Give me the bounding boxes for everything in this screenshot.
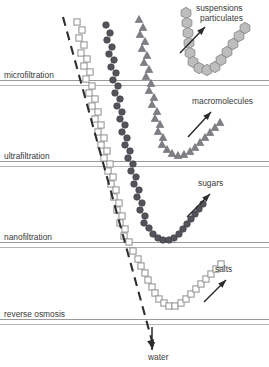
- marker-circle: [113, 70, 120, 77]
- marker-circle: [137, 207, 144, 214]
- filtration-spectrum-figure: microfiltrationultrafiltrationnanofiltra…: [0, 0, 269, 367]
- marker-circle: [103, 22, 110, 29]
- marker-triangle: [148, 101, 156, 108]
- marker-circle: [109, 44, 116, 51]
- marker-triangle: [216, 119, 224, 126]
- marker-square: [152, 290, 158, 296]
- marker-square: [166, 303, 172, 309]
- marker-triangle: [135, 16, 143, 23]
- marker-triangle: [142, 73, 150, 80]
- callout-label-sugars: sugars: [198, 178, 223, 188]
- marker-triangle: [150, 94, 158, 101]
- marker-circle: [115, 83, 122, 90]
- membrane-label-ultrafiltration: ultrafiltration: [4, 151, 50, 161]
- marker-circle: [119, 129, 126, 136]
- marker-circle: [104, 37, 111, 44]
- marker-square: [126, 239, 132, 245]
- marker-square: [86, 90, 92, 96]
- marker-square: [81, 42, 87, 48]
- membrane-label-microfiltration: microfiltration: [4, 70, 54, 80]
- marker-hexagon: [240, 22, 250, 33]
- marker-circle: [127, 148, 134, 155]
- marker-square: [74, 19, 80, 25]
- marker-triangle: [138, 45, 146, 52]
- marker-circle: [136, 187, 143, 194]
- marker-circle: [130, 161, 137, 168]
- callout-label-water: water: [147, 352, 169, 362]
- marker-square: [79, 27, 85, 33]
- marker-circle: [134, 194, 141, 201]
- marker-triangle: [158, 141, 166, 148]
- marker-circle: [106, 51, 113, 58]
- marker-triangle: [141, 38, 149, 45]
- marker-triangle: [140, 59, 148, 66]
- marker-circle: [110, 77, 117, 84]
- marker-triangle: [136, 31, 144, 38]
- marker-circle: [133, 174, 140, 181]
- marker-square: [107, 161, 113, 167]
- callout-label-suspensions-particulates-line2: particulates: [200, 13, 243, 23]
- marker-circle: [108, 64, 115, 71]
- marker-triangle: [153, 108, 161, 115]
- marker-square: [145, 277, 151, 283]
- marker-square: [92, 96, 98, 102]
- membrane-threshold-lines: [0, 81, 269, 325]
- marker-triangle: [143, 52, 151, 59]
- series-water: [74, 19, 224, 309]
- marker-square: [119, 213, 125, 219]
- marker-circle: [139, 200, 146, 207]
- marker-square: [101, 155, 107, 161]
- marker-hexagon: [183, 27, 193, 38]
- marker-circle: [125, 155, 132, 162]
- marker-triangle: [145, 66, 153, 73]
- marker-square: [76, 35, 82, 41]
- marker-square: [104, 148, 110, 154]
- marker-hexagon: [181, 7, 191, 18]
- marker-square: [110, 174, 116, 180]
- callout-arrow-head-water: [149, 342, 155, 350]
- marker-square: [98, 122, 104, 128]
- membrane-label-nanofiltration: nanofiltration: [4, 232, 52, 242]
- marker-circle: [112, 90, 119, 97]
- marker-circle: [117, 116, 124, 123]
- filtration-spectrum-svg: microfiltrationultrafiltrationnanofiltra…: [0, 0, 269, 367]
- callout-label-suspensions-particulates: suspensions: [196, 3, 243, 13]
- marker-circle: [107, 30, 114, 37]
- marker-circle: [124, 135, 131, 142]
- marker-circle: [146, 225, 153, 232]
- marker-square: [149, 284, 155, 290]
- membrane-label-reverse-osmosis: reverse osmosis: [4, 309, 65, 319]
- marker-square: [138, 263, 144, 269]
- marker-square: [105, 168, 111, 174]
- marker-square: [87, 69, 93, 75]
- series-macromolecules: [135, 16, 224, 159]
- marker-circle: [119, 109, 126, 116]
- marker-triangle: [139, 24, 147, 31]
- marker-circle: [142, 213, 149, 220]
- marker-square: [89, 103, 95, 109]
- marker-triangle: [151, 115, 159, 122]
- marker-square: [95, 109, 101, 115]
- marker-square: [84, 56, 90, 62]
- marker-square: [78, 50, 84, 56]
- marker-circle: [111, 57, 118, 64]
- marker-square: [81, 63, 87, 69]
- marker-square: [83, 76, 89, 82]
- marker-square: [101, 135, 107, 141]
- marker-square: [89, 83, 95, 89]
- marker-square: [122, 226, 128, 232]
- marker-square: [113, 187, 119, 193]
- marker-hexagon: [182, 17, 192, 28]
- callout-label-salts: salts: [215, 264, 232, 274]
- marker-square: [172, 303, 178, 309]
- text-labels-layer: microfiltrationultrafiltrationnanofiltra…: [4, 3, 253, 362]
- marker-square: [142, 270, 148, 276]
- marker-triangle: [145, 87, 153, 94]
- callout-label-macromolecules: macromolecules: [192, 96, 253, 106]
- marker-circle: [131, 181, 138, 188]
- marker-square: [135, 256, 141, 262]
- marker-circle: [160, 237, 167, 244]
- marker-circle: [141, 220, 148, 227]
- marker-circle: [128, 168, 135, 175]
- marker-square: [130, 248, 136, 254]
